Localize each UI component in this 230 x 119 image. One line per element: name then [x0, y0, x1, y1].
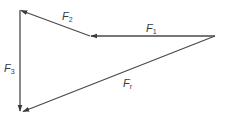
vector-f2-arrow: [21, 11, 90, 37]
label-fr-subscript: r: [130, 83, 132, 90]
force-vector-diagram: [0, 0, 230, 119]
label-fr-symbol: F: [123, 77, 130, 89]
label-f3-subscript: 3: [11, 68, 15, 75]
label-f1: F1: [146, 23, 157, 35]
label-f3-symbol: F: [4, 62, 11, 74]
label-f1-subscript: 1: [153, 28, 157, 35]
vector-fr-resultant-arrow: [23, 36, 215, 112]
label-f2-symbol: F: [62, 10, 69, 22]
label-fr: Fr: [123, 78, 132, 90]
label-f1-symbol: F: [146, 22, 153, 34]
label-f2: F2: [62, 11, 73, 23]
label-f3: F3: [4, 63, 15, 75]
label-f2-subscript: 2: [69, 16, 73, 23]
